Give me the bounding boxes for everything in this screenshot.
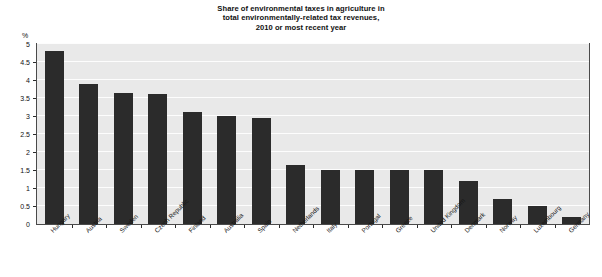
x-axis-labels: HungaryAustriaSwedenCzech RepublicFinlan… [36, 229, 590, 277]
x-tick-mark [175, 225, 176, 228]
x-tick-mark [244, 225, 245, 228]
plot-area [36, 43, 590, 225]
y-tick-label: 2.5 [20, 131, 30, 138]
bar-sweden[interactable] [114, 93, 133, 224]
y-tick-label: 1 [26, 185, 30, 192]
y-tick-label: 0 [26, 221, 30, 228]
y-tick-label: 4 [26, 77, 30, 84]
bar-australia[interactable] [217, 116, 236, 224]
bar-finland[interactable] [183, 112, 202, 224]
bar-spain[interactable] [252, 118, 271, 224]
x-tick-mark [279, 225, 280, 228]
x-tick-mark [486, 225, 487, 228]
x-tick-mark [348, 225, 349, 228]
y-tick-label: 2 [26, 149, 30, 156]
x-tick-mark [72, 225, 73, 228]
y-tick-label: 3.5 [20, 95, 30, 102]
y-axis: 00.511.522.533.544.55 [0, 43, 36, 225]
x-tick-mark [313, 225, 314, 228]
bar-italy[interactable] [321, 170, 340, 224]
x-tick-mark [210, 225, 211, 228]
y-tick-label: 5 [26, 41, 30, 48]
bar-hungary[interactable] [45, 51, 64, 224]
y-axis-unit-label: % [22, 32, 28, 39]
y-tick-label: 0.5 [20, 203, 30, 210]
bar-czech-republic[interactable] [148, 94, 167, 224]
y-tick-label: 3 [26, 113, 30, 120]
x-tick-mark [555, 225, 556, 228]
x-tick-mark [451, 225, 452, 228]
chart-title: Share of environmental taxes in agricult… [0, 4, 602, 32]
x-tick-mark [382, 225, 383, 228]
bar-netherlands[interactable] [286, 165, 305, 224]
bar-austria[interactable] [79, 84, 98, 224]
chart-title-line-3: 2010 or most recent year [0, 23, 602, 32]
x-tick-mark [141, 225, 142, 228]
x-tick-mark [520, 225, 521, 228]
x-tick-mark [417, 225, 418, 228]
x-tick-mark [106, 225, 107, 228]
chart-title-line-2: total environmentally-related tax revenu… [0, 13, 602, 22]
y-tick-label: 1.5 [20, 167, 30, 174]
chart-title-line-1: Share of environmental taxes in agricult… [0, 4, 602, 13]
bar-series [37, 44, 589, 224]
y-tick-label: 4.5 [20, 59, 30, 66]
